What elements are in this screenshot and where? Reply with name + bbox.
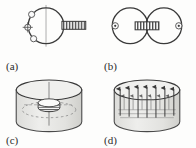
marker-cross-icon xyxy=(23,22,33,32)
panel-c: (c) xyxy=(0,74,98,148)
marker-dot-icon xyxy=(178,25,180,27)
marker-icon xyxy=(31,36,37,42)
hatched-disc-top xyxy=(38,98,60,106)
hatched-bar xyxy=(62,21,86,29)
marker-icon xyxy=(29,11,35,17)
panel-b: (b) xyxy=(98,0,196,74)
panel-a: (a) xyxy=(0,0,98,74)
figure-grid: (a) xyxy=(0,0,196,147)
panel-d-label: (d) xyxy=(104,134,117,146)
panel-a-label: (a) xyxy=(6,60,18,72)
marker-group xyxy=(25,11,37,41)
marker-dot-icon xyxy=(114,25,116,27)
panel-c-label: (c) xyxy=(6,134,18,146)
panel-d: (d) xyxy=(98,74,196,148)
hatched-bar xyxy=(135,22,159,30)
panel-b-label: (b) xyxy=(104,60,117,72)
